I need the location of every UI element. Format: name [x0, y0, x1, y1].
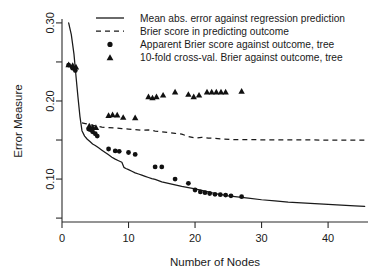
x-tick-label: 40 — [322, 232, 334, 244]
data-point-triangle — [222, 89, 228, 95]
series-line-brier-score — [82, 123, 365, 140]
data-point-circle — [173, 177, 178, 182]
y-tick-label: 0.30 — [44, 12, 56, 33]
data-point-circle — [186, 181, 191, 186]
legend-item-label: Apparent Brier score against outcome, tr… — [140, 39, 335, 50]
data-point-circle — [229, 193, 234, 198]
data-point-triangle — [172, 89, 178, 95]
legend-item-label: Mean abs. error against regression predi… — [140, 13, 345, 24]
data-point-circle — [198, 190, 203, 195]
x-axis-title: Number of Nodes — [170, 256, 260, 268]
chart-legend: Mean abs. error against regression predi… — [96, 13, 345, 64]
data-point-circle — [117, 149, 122, 154]
y-axis-tick-marks — [56, 23, 62, 218]
data-point-circle — [133, 152, 138, 157]
data-point-triangle — [196, 92, 202, 98]
data-point-triangle — [185, 91, 191, 97]
data-point-circle — [153, 165, 158, 170]
x-tick-label: 20 — [189, 232, 201, 244]
series-markers-crossval-brier — [65, 61, 244, 130]
x-axis-tick-labels: 010203040 — [59, 232, 334, 244]
data-point-triangle — [120, 114, 126, 120]
y-axis-tick-labels: 0.100.200.30 — [44, 12, 56, 190]
data-point-triangle — [114, 112, 120, 118]
data-point-circle — [159, 165, 164, 170]
data-point-circle — [203, 190, 208, 195]
data-point-circle — [218, 192, 223, 197]
data-point-circle — [223, 193, 228, 198]
y-axis-title: Error Measure — [12, 84, 24, 158]
legend-marker-triangle — [107, 54, 114, 60]
legend-marker-circle — [107, 42, 112, 47]
data-point-triangle — [238, 88, 244, 94]
x-axis-tick-marks — [62, 222, 328, 228]
data-point-circle — [106, 147, 111, 152]
y-tick-label: 0.10 — [44, 168, 56, 189]
data-point-triangle — [191, 93, 197, 99]
data-point-circle — [213, 192, 218, 197]
data-point-triangle — [160, 92, 166, 98]
chart-plot-area: 0.100.200.30 010203040 Error Measure Num… — [0, 0, 374, 274]
chart-container: 0.100.200.30 010203040 Error Measure Num… — [0, 0, 374, 274]
legend-item-label: Brier score in predicting outcome — [140, 26, 289, 37]
data-point-triangle — [153, 93, 159, 99]
data-point-circle — [193, 188, 198, 193]
x-tick-label: 10 — [122, 232, 134, 244]
data-point-triangle — [132, 115, 138, 121]
data-point-circle — [239, 194, 244, 199]
x-tick-label: 0 — [59, 232, 65, 244]
data-point-circle — [207, 191, 212, 196]
x-tick-label: 30 — [255, 232, 267, 244]
y-tick-label: 0.20 — [44, 90, 56, 111]
data-point-circle — [126, 150, 131, 155]
legend-item-label: 10-fold cross-val. Brier against outcome… — [140, 52, 343, 63]
data-point-circle — [95, 134, 100, 139]
